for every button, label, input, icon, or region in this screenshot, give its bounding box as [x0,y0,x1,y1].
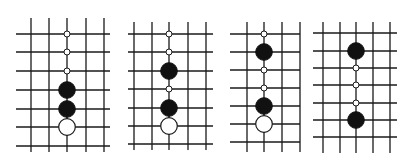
go-diagrams [0,0,406,165]
black-stone-icon [256,98,273,115]
go-board-1 [16,18,110,152]
empty-point-marker-icon [166,49,172,55]
empty-point-marker-icon [261,67,267,73]
black-stone-icon [59,101,76,118]
empty-point-marker-icon [64,49,70,55]
empty-point-marker-icon [64,68,70,74]
black-stone-icon [161,63,178,80]
empty-point-marker-icon [261,31,267,37]
empty-point-marker-icon [353,82,359,88]
go-board-2 [128,22,213,150]
empty-point-marker-icon [353,100,359,106]
empty-point-marker-icon [64,31,70,37]
empty-point-marker-icon [353,65,359,71]
white-stone-icon [256,116,273,133]
empty-point-marker-icon [261,85,267,91]
black-stone-icon [161,100,178,117]
black-stone-icon [256,44,273,61]
go-board-3 [230,22,300,152]
black-stone-icon [348,43,365,60]
empty-point-marker-icon [166,31,172,37]
go-board-4 [313,22,397,153]
white-stone-icon [161,118,178,135]
black-stone-icon [348,112,365,129]
white-stone-icon [59,119,76,136]
black-stone-icon [59,82,76,99]
empty-point-marker-icon [166,86,172,92]
